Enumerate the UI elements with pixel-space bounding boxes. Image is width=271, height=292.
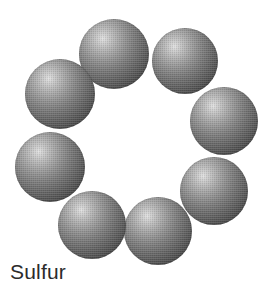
figure-caption: Sulfur <box>10 259 66 285</box>
sphere-shading <box>180 157 248 225</box>
molecule-diagram <box>0 0 271 292</box>
atom-sphere <box>124 197 192 265</box>
sphere-shading <box>152 28 218 94</box>
sphere-shading <box>190 87 258 155</box>
atom-sphere <box>190 87 258 155</box>
sulfur-figure: Sulfur <box>0 0 271 292</box>
atom-sphere <box>58 191 126 259</box>
sphere-shading <box>58 191 126 259</box>
sphere-shading <box>15 132 85 202</box>
sphere-shading <box>124 197 192 265</box>
atom-sphere <box>180 157 248 225</box>
sphere-shading <box>25 59 95 129</box>
atom-sphere <box>152 28 218 94</box>
atom-sphere <box>25 59 95 129</box>
atom-sphere <box>15 132 85 202</box>
